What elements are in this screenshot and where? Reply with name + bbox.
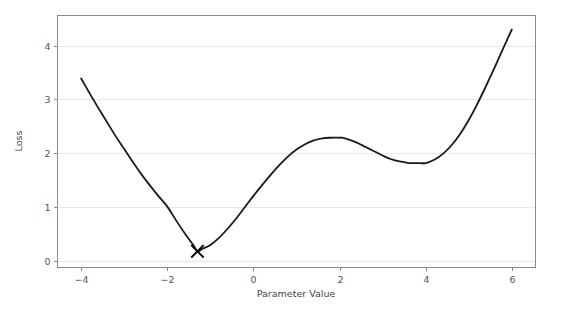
chart-figure: −4−20246 01234 Parameter Value Loss <box>0 0 564 310</box>
y-tick-label: 2 <box>44 148 50 159</box>
x-tick-label: 0 <box>250 274 256 285</box>
x-tick-label: 4 <box>423 274 429 285</box>
y-axis-label: Loss <box>13 131 24 152</box>
gridlines-group <box>58 47 536 262</box>
global-minimum-marker <box>191 245 203 257</box>
x-tick-label: −4 <box>74 274 88 285</box>
x-tick-label: 2 <box>337 274 343 285</box>
loss-curve-line <box>81 30 512 252</box>
y-tick-label: 4 <box>44 41 50 52</box>
y-tick-label: 0 <box>44 256 50 267</box>
plot-frame <box>58 16 536 268</box>
x-axis-ticks: −4−20246 <box>74 268 515 285</box>
x-axis-label: Parameter Value <box>257 288 336 299</box>
y-tick-label: 1 <box>44 202 50 213</box>
y-axis-ticks: 01234 <box>44 41 57 267</box>
x-tick-label: 6 <box>509 274 515 285</box>
loss-curve-group <box>81 30 512 252</box>
y-tick-label: 3 <box>44 94 50 105</box>
axes-spines <box>58 16 536 268</box>
loss-landscape-chart: −4−20246 01234 Parameter Value Loss <box>0 0 564 310</box>
x-tick-label: −2 <box>160 274 174 285</box>
